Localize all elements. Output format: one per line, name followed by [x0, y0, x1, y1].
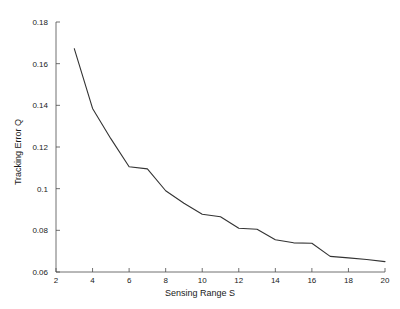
- y-axis-ticks: [56, 22, 60, 272]
- y-axis-tick-label: 0.14: [0, 101, 48, 110]
- x-axis-tick-label: 20: [381, 276, 390, 285]
- x-axis-tick-label: 10: [198, 276, 207, 285]
- y-axis-tick-label: 0.12: [0, 143, 48, 152]
- y-axis-tick-label: 0.08: [0, 226, 48, 235]
- x-axis-tick-label: 16: [307, 276, 316, 285]
- x-axis-tick-label: 18: [344, 276, 353, 285]
- y-axis-tick-label: 0.18: [0, 18, 48, 27]
- x-axis-tick-label: 6: [127, 276, 131, 285]
- x-axis-tick-label: 8: [163, 276, 167, 285]
- y-axis-tick-label: 0.16: [0, 59, 48, 68]
- x-axis-ticks: [56, 268, 385, 272]
- x-axis-tick-label: 4: [90, 276, 94, 285]
- plot-canvas: [0, 0, 400, 309]
- y-axis-tick-label: 0.06: [0, 268, 48, 277]
- x-axis-tick-label: 14: [271, 276, 280, 285]
- data-line-series-0: [74, 49, 385, 262]
- x-axis-tick-label: 12: [234, 276, 243, 285]
- x-axis-title: Sensing Range S: [0, 288, 400, 298]
- chart-figure: 0.060.080.10.120.140.160.18 246810121416…: [0, 0, 400, 309]
- axes: [56, 22, 385, 272]
- data-series-group: [74, 49, 385, 262]
- y-axis-tick-label: 0.1: [0, 184, 48, 193]
- y-axis-title: Tracking Error Q: [13, 82, 23, 222]
- x-axis-tick-label: 2: [54, 276, 58, 285]
